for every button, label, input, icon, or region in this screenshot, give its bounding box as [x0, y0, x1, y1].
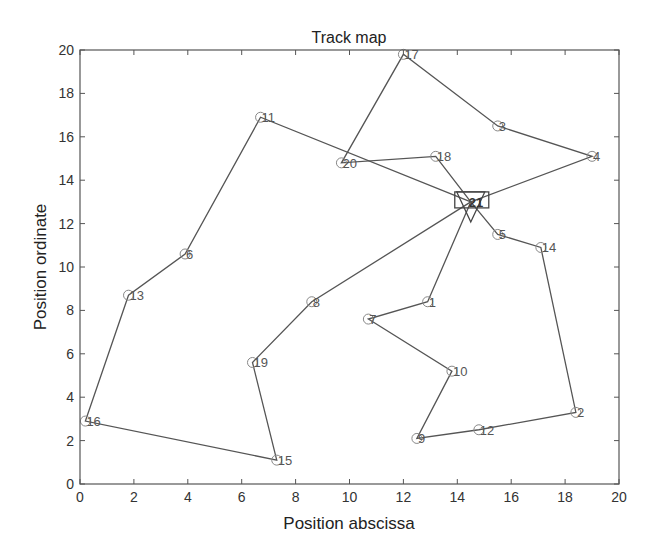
x-tick-label: 10 — [342, 489, 358, 505]
x-tick-label: 18 — [557, 489, 573, 505]
point-label: 10 — [453, 364, 467, 379]
x-tick-label: 6 — [238, 489, 246, 505]
y-axis-title: Position ordinate — [31, 204, 50, 331]
y-axis-ticks: 02468101214161820 — [58, 42, 619, 492]
y-tick-label: 16 — [58, 129, 74, 145]
point-label: 14 — [542, 240, 556, 255]
route-line — [341, 54, 592, 202]
point-label: 19 — [253, 355, 267, 370]
point-label: 7 — [369, 312, 376, 327]
point-label: 4 — [593, 149, 600, 164]
point-label: 3 — [499, 119, 506, 134]
point-label: 6 — [186, 247, 193, 262]
point-label: 8 — [313, 295, 320, 310]
point-label: 20 — [342, 156, 356, 171]
x-axis-title: Position abscissa — [283, 514, 415, 533]
depot-label: 21 — [469, 195, 483, 210]
x-tick-label: 12 — [396, 489, 412, 505]
point-label: 13 — [130, 288, 144, 303]
y-tick-label: 2 — [66, 433, 74, 449]
point-markers: 1234567891011121314151617181920 — [80, 47, 600, 468]
point-label: 2 — [577, 405, 584, 420]
x-tick-label: 16 — [503, 489, 519, 505]
point-label: 5 — [499, 227, 506, 242]
x-tick-label: 14 — [450, 489, 466, 505]
point-label: 11 — [262, 110, 276, 125]
point-label: 1 — [429, 295, 436, 310]
y-tick-label: 20 — [58, 42, 74, 58]
track-map-chart: Track map 123456789101112131415161718192… — [0, 0, 658, 557]
y-tick-label: 4 — [66, 389, 74, 405]
y-tick-label: 8 — [66, 302, 74, 318]
y-tick-label: 6 — [66, 346, 74, 362]
point-label: 18 — [437, 149, 451, 164]
route-line — [368, 202, 576, 439]
x-tick-label: 2 — [130, 489, 138, 505]
x-tick-label: 0 — [76, 489, 84, 505]
y-tick-label: 18 — [58, 85, 74, 101]
y-tick-label: 14 — [58, 172, 74, 188]
x-tick-label: 4 — [184, 489, 192, 505]
y-tick-label: 10 — [58, 259, 74, 275]
x-tick-label: 8 — [292, 489, 300, 505]
y-tick-label: 12 — [58, 216, 74, 232]
y-tick-label: 0 — [66, 476, 74, 492]
point-label: 9 — [418, 431, 425, 446]
point-label: 12 — [480, 423, 494, 438]
x-tick-label: 20 — [611, 489, 627, 505]
chart-title: Track map — [312, 29, 387, 46]
route-lines — [85, 54, 592, 460]
point-label: 16 — [86, 414, 100, 429]
point-label: 15 — [278, 453, 292, 468]
